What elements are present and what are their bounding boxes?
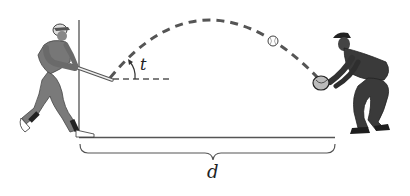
baseball-icon: [268, 36, 278, 46]
angle-arc: [130, 62, 135, 79]
fielder-figure: [313, 33, 390, 134]
projectile-diagram: d t: [0, 0, 410, 196]
distance-brace: [80, 144, 335, 160]
batter-figure: [20, 24, 112, 137]
distance-label: d: [207, 161, 219, 182]
angle-label: t: [140, 55, 147, 74]
